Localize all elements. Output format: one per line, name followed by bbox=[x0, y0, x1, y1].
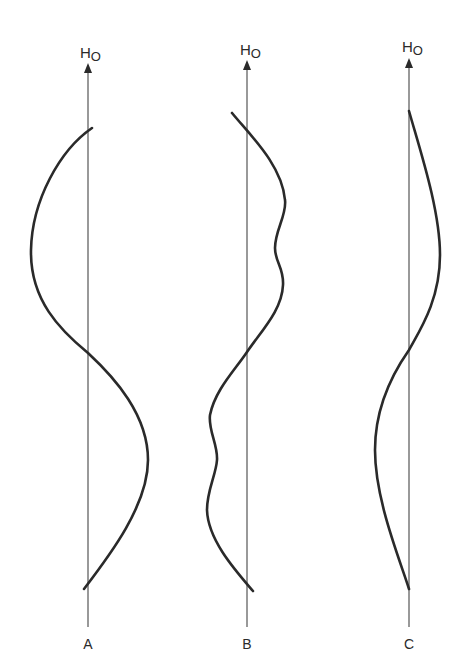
panel-b bbox=[207, 60, 285, 627]
panel-c bbox=[375, 58, 440, 627]
axis-b-label: HO bbox=[240, 41, 261, 61]
diagram-canvas: HO HO HO A B C bbox=[0, 0, 453, 667]
curve-b bbox=[207, 113, 285, 591]
curve-c bbox=[375, 111, 440, 589]
axis-c-label: HO bbox=[402, 38, 423, 58]
panel-a bbox=[31, 63, 148, 627]
panel-a-label: A bbox=[83, 636, 93, 652]
arrow-up-icon bbox=[243, 60, 251, 70]
curve-a bbox=[31, 128, 148, 589]
axis-a-label: HO bbox=[80, 44, 101, 64]
arrow-up-icon bbox=[405, 58, 413, 68]
arrow-up-icon bbox=[84, 63, 92, 73]
panel-c-label: C bbox=[404, 636, 414, 652]
panel-b-label: B bbox=[242, 636, 251, 652]
